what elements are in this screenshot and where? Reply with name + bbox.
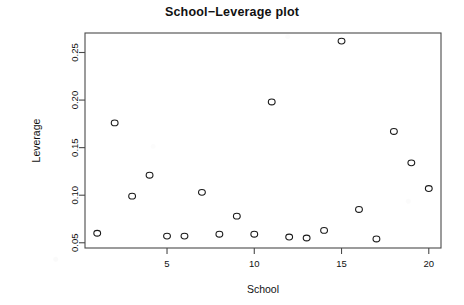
data-point: School 15, Leverage 0.262 — [338, 38, 345, 44]
y-axis-ticks: 0.050.100.150.200.25 — [70, 43, 86, 252]
y-tick-label-0.15: 0.15 — [70, 138, 81, 157]
x-tick-label-10: 10 — [249, 258, 260, 269]
data-point: School 8, Leverage 0.059 — [216, 231, 223, 237]
data-point: School 19, Leverage 0.134 — [408, 160, 415, 166]
data-point: School 2, Leverage 0.176 — [111, 120, 118, 126]
axes-group — [85, 33, 441, 248]
plot-canvas: 5101520 0.050.100.150.200.25 School 1, L… — [0, 0, 464, 305]
axis-titles-group: SchoolLeverage — [30, 118, 279, 295]
data-point: School 4, Leverage 0.121 — [146, 172, 153, 178]
x-tick-label-5: 5 — [164, 258, 169, 269]
data-point: School 6, Leverage 0.057 — [181, 233, 188, 239]
y-tick-label-0.05: 0.05 — [70, 234, 81, 253]
x-axis-title: School — [247, 283, 279, 295]
scatter-plot-figure: School−Leverage plot 5101520 0.050.100.1… — [0, 0, 464, 305]
data-point: School 13, Leverage 0.055 — [303, 235, 310, 241]
data-point: School 16, Leverage 0.085 — [356, 207, 363, 213]
data-point: School 9, Leverage 0.078 — [233, 213, 240, 219]
data-point: School 3, Leverage 0.099 — [129, 193, 136, 199]
data-points-group: School 1, Leverage 0.06School 2, Leverag… — [94, 38, 432, 242]
data-point: School 17, Leverage 0.054 — [373, 236, 380, 242]
data-point: School 5, Leverage 0.057 — [164, 233, 171, 239]
data-point: School 7, Leverage 0.103 — [199, 189, 206, 195]
x-axis-ticks: 5101520 — [164, 248, 434, 269]
data-point: School 20, Leverage 0.107 — [425, 186, 432, 192]
plot-box — [85, 33, 441, 248]
data-point: School 11, Leverage 0.198 — [268, 99, 275, 105]
y-tick-label-0.10: 0.10 — [70, 186, 81, 205]
y-tick-label-0.25: 0.25 — [70, 43, 81, 62]
y-tick-label-0.20: 0.20 — [70, 91, 81, 110]
x-tick-label-15: 15 — [336, 258, 347, 269]
data-point: School 18, Leverage 0.167 — [390, 129, 397, 135]
y-axis-title: Leverage — [30, 118, 42, 162]
data-point: School 1, Leverage 0.06 — [94, 230, 101, 236]
x-tick-label-20: 20 — [423, 258, 434, 269]
data-point: School 12, Leverage 0.056 — [286, 234, 293, 240]
data-point: School 14, Leverage 0.063 — [321, 228, 328, 234]
data-point: School 10, Leverage 0.059 — [251, 231, 258, 237]
